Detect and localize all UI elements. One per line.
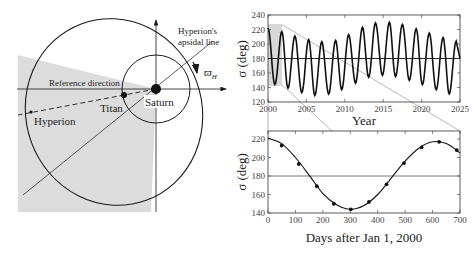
svg-text:180: 180 xyxy=(252,54,266,64)
chart-bottom: 140160180200220 0100200300400500600700 D… xyxy=(234,131,467,245)
titan-body xyxy=(121,92,127,98)
observation-point xyxy=(349,207,353,211)
varpi-arc-arrow xyxy=(193,62,197,73)
x-axis-label-bottom: Days after Jan 1, 2000 xyxy=(306,230,423,245)
svg-text:2020: 2020 xyxy=(413,104,432,114)
svg-text:600: 600 xyxy=(426,215,440,225)
svg-text:500: 500 xyxy=(398,215,412,225)
observation-point xyxy=(420,145,424,149)
chart-top: 120140160180200220240 200020052010201520… xyxy=(234,10,470,128)
orbit-diagram: Hyperion's apsidal line Reference direct… xyxy=(0,0,229,230)
observation-point xyxy=(437,140,441,144)
reference-direction-label: Reference direction xyxy=(49,78,120,88)
svg-text:200: 200 xyxy=(252,39,266,49)
figure: Hyperion's apsidal line Reference direct… xyxy=(0,0,474,254)
svg-text:240: 240 xyxy=(252,10,266,20)
model-curve xyxy=(268,138,460,209)
hyperion-label: Hyperion xyxy=(34,115,76,127)
svg-text:0: 0 xyxy=(266,215,271,225)
svg-text:200: 200 xyxy=(316,215,330,225)
y-axis-label-top: σ (deg) xyxy=(234,40,249,78)
titan-label: Titan xyxy=(100,102,123,114)
observation-point xyxy=(367,200,371,204)
observation-point xyxy=(455,148,459,152)
saturn-label: Saturn xyxy=(145,96,174,108)
svg-text:400: 400 xyxy=(371,215,385,225)
svg-text:2015: 2015 xyxy=(374,104,393,114)
svg-text:300: 300 xyxy=(344,215,358,225)
apsidal-line-label-2: apsidal line xyxy=(178,37,219,47)
svg-text:700: 700 xyxy=(453,215,467,225)
hyperion-body xyxy=(29,110,32,113)
svg-text:220: 220 xyxy=(252,25,266,35)
observation-point xyxy=(315,184,319,188)
observation-markers xyxy=(280,140,459,211)
svg-text:200: 200 xyxy=(252,153,266,163)
observation-point xyxy=(402,161,406,165)
y-axis-label-bottom: σ (deg) xyxy=(234,153,249,191)
svg-text:160: 160 xyxy=(252,68,266,78)
observation-point xyxy=(385,182,389,186)
x-axis-label-top: Year xyxy=(352,113,377,128)
svg-text:140: 140 xyxy=(252,208,266,218)
saturn-body xyxy=(151,84,161,94)
svg-text:2000: 2000 xyxy=(259,104,278,114)
x-axis-ticks-bottom: 0100200300400500600700 xyxy=(266,131,468,225)
svg-text:220: 220 xyxy=(252,134,266,144)
observation-point xyxy=(332,202,336,206)
svg-text:180: 180 xyxy=(252,171,266,181)
svg-text:2025: 2025 xyxy=(451,104,470,114)
varpi-symbol: ϖH xyxy=(204,66,218,81)
svg-text:160: 160 xyxy=(252,190,266,200)
observation-point xyxy=(297,162,301,166)
apsidal-line-label-1: Hyperion's xyxy=(178,26,218,36)
plot-frame-bottom xyxy=(268,131,460,213)
svg-text:140: 140 xyxy=(252,83,266,93)
svg-text:2005: 2005 xyxy=(297,104,316,114)
observation-point xyxy=(280,144,284,148)
svg-text:100: 100 xyxy=(289,215,303,225)
